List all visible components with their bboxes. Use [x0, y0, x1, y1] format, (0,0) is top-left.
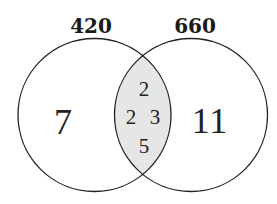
set-label-left: 420 [70, 14, 112, 38]
right-only-factor: 11 [192, 101, 229, 141]
common-factor-left: 2 [126, 105, 137, 129]
left-only-factor: 7 [54, 102, 72, 142]
common-factor-right: 3 [150, 105, 161, 129]
set-label-right: 660 [174, 14, 216, 38]
common-factor-top: 2 [139, 77, 150, 101]
common-factor-bottom: 5 [139, 134, 150, 158]
venn-diagram: 420 660 7 11 2 2 3 5 [0, 0, 277, 204]
